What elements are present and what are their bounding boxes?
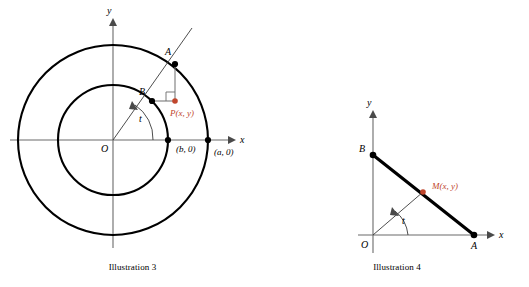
y-axis-arrowhead [109,18,117,26]
point-m-label: M(x, y) [431,181,458,191]
point-m-marker [420,189,426,195]
x-axis-arrowhead [228,136,236,144]
y-axis-label: y [106,5,112,16]
point-b-marker [370,152,377,159]
illustration-3-diagram: x y t A [0,0,265,255]
point-p-marker [172,98,178,104]
illustration-4-diagram: x y t B A M(x, y) [265,0,529,255]
illustration-4-caption: Illustration 4 [265,262,529,272]
figure-sheet: x y t A [0,0,529,287]
outer-intercept-marker [205,137,211,143]
illustration-3-caption: Illustration 3 [0,262,265,272]
y-axis-group: y [366,97,377,253]
angle-t-arrowhead [390,207,399,216]
outer-intercept-label: (a, 0) [214,147,234,157]
point-a-label: A [470,240,478,251]
segment-ab [373,155,474,235]
angle-t-arrowhead [129,101,138,110]
y-axis-label: y [366,97,372,108]
angle-t-label: t [402,215,405,226]
angle-t-arc [135,105,153,140]
x-axis-arrowhead [487,231,495,239]
inner-intercept-marker [165,137,171,143]
point-b-label: B [139,86,145,97]
x-axis-group: x [358,229,504,240]
point-a-marker [471,232,478,239]
illustration-4-panel: x y t B A M(x, y) [265,0,529,287]
x-axis-label: x [498,229,504,240]
angle-t-label: t [139,113,142,124]
point-b-label: B [359,143,365,154]
origin-label: O [361,239,368,250]
point-b-marker [149,98,155,104]
point-a-marker [172,61,178,67]
x-axis-label: x [239,134,245,145]
point-p-label: P(x, y) [169,108,194,118]
point-a-label: A [164,46,172,57]
y-axis-group: y [106,5,117,248]
origin-label: O [101,143,108,154]
y-axis-arrowhead [369,110,377,118]
inner-intercept-label: (b, 0) [176,144,196,154]
illustration-3-panel: x y t A [0,0,265,287]
